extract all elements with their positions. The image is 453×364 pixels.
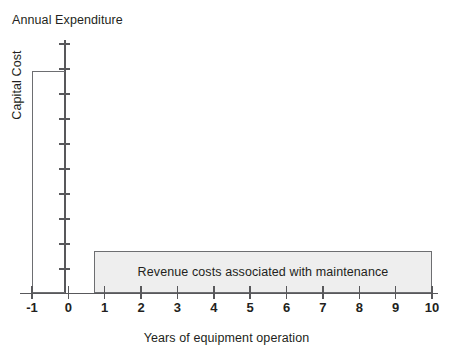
x-axis-tick-label: 0 xyxy=(48,300,88,315)
x-axis-tick xyxy=(431,286,433,299)
x-axis-tick xyxy=(213,286,215,299)
chart-title: Annual Expenditure xyxy=(12,13,123,28)
revenue-costs-bar: Revenue costs associated with maintenanc… xyxy=(94,251,432,293)
x-axis-tick xyxy=(322,286,324,299)
x-axis-tick-label: 9 xyxy=(376,300,416,315)
x-axis-tick-label: 5 xyxy=(230,300,270,315)
x-axis-tick xyxy=(31,286,33,299)
x-axis-tick xyxy=(140,286,142,299)
y-axis-tick xyxy=(59,43,70,45)
x-axis-tick-label: 10 xyxy=(412,300,452,315)
y-axis-tick xyxy=(59,68,70,70)
capital-cost-box xyxy=(32,71,65,293)
x-axis-tick-label: 3 xyxy=(157,300,197,315)
x-axis-title: Years of equipment operation xyxy=(0,331,453,345)
x-axis-tick xyxy=(249,286,251,299)
x-axis-tick xyxy=(68,286,70,299)
x-axis-tick-label: 6 xyxy=(267,300,307,315)
revenue-costs-label: Revenue costs associated with maintenanc… xyxy=(138,265,389,279)
x-axis-tick-label: 4 xyxy=(194,300,234,315)
x-axis-tick xyxy=(104,286,106,299)
x-axis-tick xyxy=(359,286,361,299)
x-axis-line xyxy=(20,293,438,295)
x-axis-tick-label: 1 xyxy=(85,300,125,315)
x-axis-tick-label: 8 xyxy=(339,300,379,315)
x-axis-tick xyxy=(395,286,397,299)
expenditure-chart: Annual Expenditure Capital Cost Revenue … xyxy=(0,0,453,364)
x-axis-tick-label: 2 xyxy=(121,300,161,315)
x-axis-tick-label: 7 xyxy=(303,300,343,315)
x-axis-tick xyxy=(286,286,288,299)
x-axis-tick xyxy=(177,286,179,299)
x-axis-tick-label: -1 xyxy=(12,300,52,315)
capital-cost-label: Capital Cost xyxy=(10,3,24,168)
